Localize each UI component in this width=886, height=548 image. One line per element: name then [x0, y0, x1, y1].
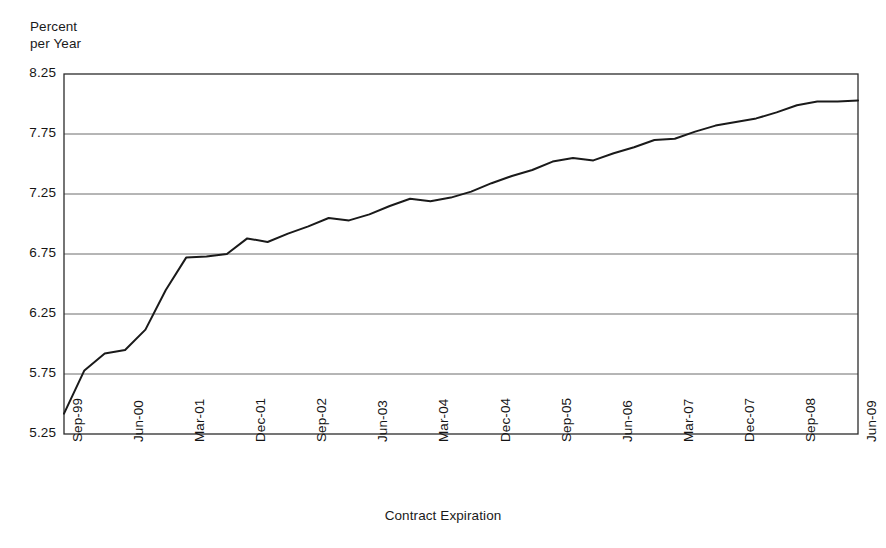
gridlines — [64, 134, 858, 374]
x-tick-label: Jun-09 — [864, 400, 879, 442]
x-tick-label: Sep-08 — [803, 398, 818, 442]
x-tick-label: Dec-01 — [253, 398, 268, 442]
x-tick-label: Jun-03 — [375, 400, 390, 442]
chart-figure: Percent per Year 8.257.757.256.756.255.7… — [0, 0, 886, 548]
y-tick-label: 5.75 — [8, 365, 56, 380]
x-tick-label: Mar-04 — [436, 399, 451, 442]
y-tick-label: 8.25 — [8, 65, 56, 80]
data-series-line — [64, 100, 858, 413]
line-chart-svg — [0, 0, 886, 548]
x-tick-label: Dec-07 — [742, 398, 757, 442]
y-tick-label: 7.75 — [8, 125, 56, 140]
x-tick-label: Mar-07 — [681, 399, 696, 442]
x-tick-label: Dec-04 — [498, 398, 513, 442]
x-tick-label: Sep-99 — [70, 398, 85, 442]
x-tick-label: Jun-06 — [620, 400, 635, 442]
y-tick-label: 6.75 — [8, 245, 56, 260]
y-tick-label: 5.25 — [8, 425, 56, 440]
y-tick-label: 6.25 — [8, 305, 56, 320]
x-tick-label: Mar-01 — [192, 399, 207, 442]
plot-area: 8.257.757.256.756.255.755.25 Sep-99Jun-0… — [0, 0, 886, 548]
x-tick-label: Jun-00 — [131, 400, 146, 442]
x-axis-title: Contract Expiration — [0, 508, 886, 523]
x-tick-label: Sep-05 — [559, 398, 574, 442]
y-tick-label: 7.25 — [8, 185, 56, 200]
x-tick-label: Sep-02 — [314, 398, 329, 442]
